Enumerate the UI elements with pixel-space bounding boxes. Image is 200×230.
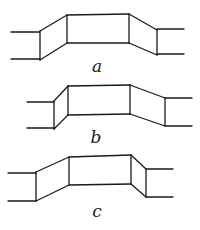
right-slant-top-line [129, 14, 157, 30]
box-top-edge [67, 14, 129, 15]
right-slant-top-line [130, 85, 165, 98]
box-top-edge [68, 85, 130, 86]
left-slant-bottom-line [40, 43, 67, 60]
pipe-bend-diagram: a b c [0, 0, 200, 230]
right-slant-bottom-line [131, 184, 146, 197]
figure-b: b [27, 85, 192, 147]
right-slant-bottom-line [130, 114, 165, 126]
figure-label-a: a [92, 56, 102, 76]
right-slant-bottom-line [129, 43, 157, 55]
left-slant-top-line [36, 157, 69, 172]
left-slant-bottom-line [36, 185, 69, 201]
left-slant-top-line [40, 15, 67, 31]
figure-label-c: c [92, 201, 102, 221]
figure-label-b: b [91, 127, 102, 147]
left-slant-bottom-line [54, 115, 68, 129]
box-bottom-edge [69, 184, 131, 185]
box-bottom-edge [68, 114, 130, 115]
figure-c: c [8, 155, 173, 221]
box-top-edge [69, 155, 131, 157]
left-slant-top-line [54, 86, 68, 101]
figure-a: a [11, 14, 184, 76]
right-slant-top-line [131, 155, 146, 169]
